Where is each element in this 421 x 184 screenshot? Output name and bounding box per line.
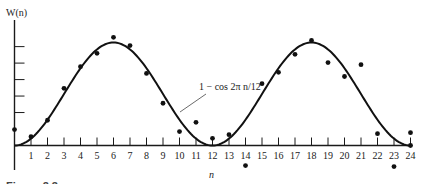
x-tick-label: 16 xyxy=(274,150,284,161)
data-point xyxy=(326,60,331,65)
x-axis-label: n xyxy=(209,169,214,180)
x-tick-label: 10 xyxy=(175,150,185,161)
x-tick-label: 1 xyxy=(29,150,34,161)
axes xyxy=(15,20,413,170)
data-point xyxy=(243,163,248,168)
x-tick-label: 11 xyxy=(191,150,201,161)
chart: 123456789101112131415161718192021222324 … xyxy=(0,0,421,184)
x-tick-label: 2 xyxy=(45,150,50,161)
x-tick-label: 12 xyxy=(208,150,218,161)
data-point xyxy=(194,120,199,125)
x-tick-label: 20 xyxy=(340,150,350,161)
data-point xyxy=(177,129,182,134)
data-point xyxy=(144,71,149,76)
x-tick-label: 3 xyxy=(62,150,67,161)
data-point xyxy=(392,164,397,169)
data-point xyxy=(45,118,50,123)
data-point xyxy=(408,130,413,135)
data-point xyxy=(408,143,413,148)
x-tick-label: 8 xyxy=(144,150,149,161)
x-tick-label: 14 xyxy=(241,150,251,161)
x-tick-label: 22 xyxy=(373,150,383,161)
data-point xyxy=(62,86,67,91)
x-tick-label: 6 xyxy=(111,150,116,161)
figure-caption: Figure 2.3 xyxy=(6,180,58,184)
x-tick-label: 24 xyxy=(406,150,416,161)
x-tick-label: 7 xyxy=(128,150,133,161)
data-point xyxy=(128,43,133,48)
x-tick-label: 17 xyxy=(290,150,300,161)
x-tick-label: 4 xyxy=(78,150,83,161)
data-point xyxy=(276,70,281,75)
x-tick-label: 15 xyxy=(257,150,267,161)
data-point xyxy=(95,51,100,56)
x-tick-label: 18 xyxy=(307,150,317,161)
annotation-leader-line xyxy=(180,94,206,112)
data-point xyxy=(309,38,314,43)
x-tick-label: 19 xyxy=(323,150,333,161)
x-tick-label: 9 xyxy=(161,150,166,161)
y-axis-label: W(n) xyxy=(6,7,27,19)
data-point xyxy=(375,131,380,136)
data-point xyxy=(293,52,298,57)
data-point xyxy=(111,35,116,40)
data-point xyxy=(210,136,215,141)
x-tick-label: 21 xyxy=(356,150,366,161)
y-ticks xyxy=(15,47,25,113)
data-point xyxy=(29,134,34,139)
x-tick-label: 13 xyxy=(224,150,234,161)
data-point xyxy=(359,62,364,67)
data-point xyxy=(12,127,17,132)
data-point xyxy=(78,64,83,69)
model-curve xyxy=(15,43,411,146)
curve-annotation: 1 − cos 2π n/12 xyxy=(199,81,261,92)
x-tick-label: 23 xyxy=(389,150,399,161)
x-tick-label: 5 xyxy=(95,150,100,161)
x-ticks: 123456789101112131415161718192021222324 xyxy=(29,138,416,161)
data-point xyxy=(161,101,166,106)
data-point xyxy=(227,132,232,137)
data-point xyxy=(342,74,347,79)
